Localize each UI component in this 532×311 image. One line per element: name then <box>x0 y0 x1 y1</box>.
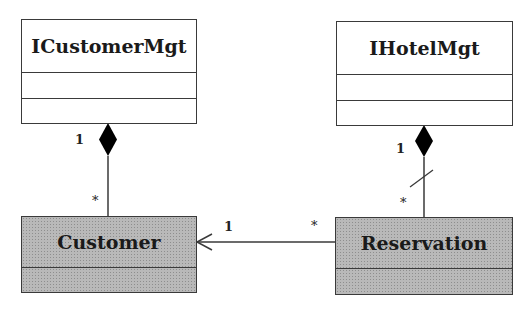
multiplicity-label: 1 <box>396 141 405 156</box>
class-name: Reservation <box>336 218 512 268</box>
attributes-compartment <box>336 268 512 294</box>
class-name: Customer <box>22 217 196 267</box>
multiplicity-label: * <box>400 195 407 210</box>
class-name: ICustomerMgt <box>22 20 196 72</box>
operations-compartment <box>337 100 512 125</box>
class-customer[interactable]: Customer <box>21 216 197 293</box>
class-name: IHotelMgt <box>337 22 512 74</box>
attributes-compartment <box>22 267 196 292</box>
composition-diamond-icon <box>99 123 117 156</box>
class-ihotelmgt[interactable]: IHotelMgt <box>336 21 513 126</box>
multiplicity-label: * <box>311 218 318 233</box>
attributes-compartment <box>337 74 512 100</box>
multiplicity-label: 1 <box>75 132 84 147</box>
class-reservation[interactable]: Reservation <box>335 217 513 295</box>
operations-compartment <box>22 98 196 123</box>
slash-mark-icon <box>410 170 433 187</box>
multiplicity-label: 1 <box>224 219 233 234</box>
class-icustomermgt[interactable]: ICustomerMgt <box>21 19 197 124</box>
multiplicity-label: * <box>92 193 99 208</box>
attributes-compartment <box>22 72 196 98</box>
composition-diamond-icon <box>415 125 433 157</box>
